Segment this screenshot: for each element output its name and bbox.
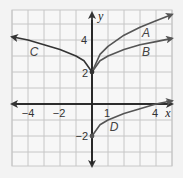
tick-y-2: 2 <box>82 67 88 79</box>
x-axis-label: x <box>164 106 171 120</box>
tick-x-neg4: −4 <box>22 107 35 119</box>
point-0-2 <box>90 70 95 75</box>
graph-figure: −4 −2 1 4 x 4 2 −2 y A B C D <box>0 0 183 178</box>
tick-y-neg2: −2 <box>75 130 88 142</box>
label-curve-b: B <box>142 45 150 59</box>
label-curve-d: D <box>110 120 119 134</box>
tick-y-4: 4 <box>81 34 87 46</box>
label-curve-c: C <box>30 45 39 59</box>
point-0-neg2 <box>90 134 95 139</box>
label-curve-a: A <box>141 26 150 40</box>
y-axis-label: y <box>97 9 104 23</box>
coordinate-plane: −4 −2 1 4 x 4 2 −2 y A B C D <box>0 0 183 178</box>
tick-x-4: 4 <box>152 107 158 119</box>
tick-x-neg2: −2 <box>53 107 66 119</box>
tick-x-1: 1 <box>104 107 110 119</box>
